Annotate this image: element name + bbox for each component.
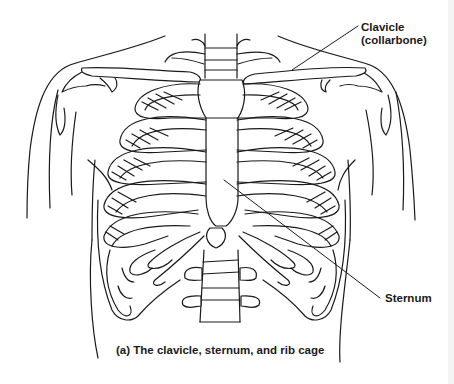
- left-shoulder-outline: [27, 36, 165, 218]
- page-edge: [448, 0, 454, 384]
- xiphoid-process: [207, 228, 226, 248]
- figure-caption: (a) The clavicle, sternum, and rib cage: [116, 344, 324, 356]
- torso-right-side: [340, 240, 350, 362]
- right-clavicle: [243, 67, 366, 84]
- left-clavicle: [81, 67, 200, 82]
- right-shoulder-outline: [278, 36, 415, 220]
- skeleton-drawing: [0, 0, 454, 384]
- spine: [182, 250, 259, 322]
- clavicle-label-name: Clavicle: [361, 21, 427, 34]
- clavicle-label-common-name: (collarbone): [361, 34, 427, 47]
- sternum: [198, 80, 245, 226]
- torso-left-side: [90, 240, 98, 358]
- left-ribs: [98, 84, 206, 320]
- rib-cage-diagram: Clavicle (collarbone) Sternum (a) The cl…: [0, 0, 454, 384]
- sternum-label: Sternum: [385, 292, 432, 305]
- clavicle-label: Clavicle (collarbone): [361, 21, 427, 47]
- clavicle-leader-line: [292, 26, 358, 70]
